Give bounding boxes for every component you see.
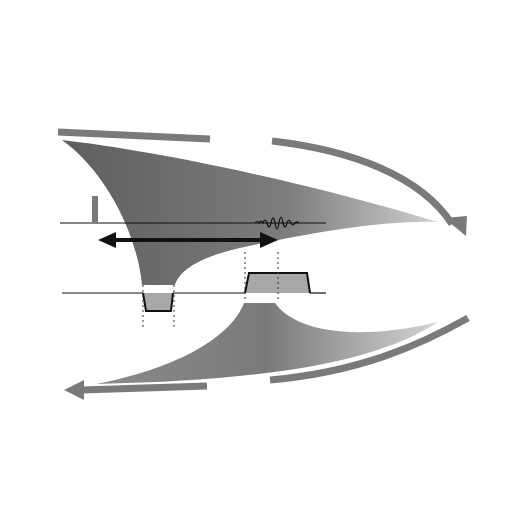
dephasing-lobe	[143, 293, 173, 311]
top-te-half-arrow-left	[58, 132, 210, 139]
diagram-canvas	[0, 0, 513, 524]
rf-alpha-pulse	[92, 196, 98, 223]
dephasing-funnel	[62, 140, 438, 285]
bottom-arrow-head-icon	[64, 380, 84, 400]
top-arrow-head-icon	[444, 216, 467, 236]
bottom-te-half-arrow-left	[82, 386, 207, 390]
gradient-echo-diagram	[0, 0, 513, 524]
te-arrow-left-head-icon	[98, 232, 116, 248]
rephasing-funnel	[96, 303, 438, 384]
